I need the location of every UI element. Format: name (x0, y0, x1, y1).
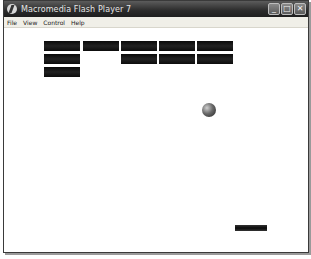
brick (197, 41, 233, 51)
window-controls: _ □ ✕ (268, 3, 306, 15)
brick (121, 41, 157, 51)
brick (197, 54, 233, 64)
menu-bar: File View Control Help (4, 17, 308, 28)
maximize-button[interactable]: □ (281, 3, 293, 15)
ball (202, 103, 216, 117)
brick (121, 54, 157, 64)
brick (44, 54, 80, 64)
title-bar[interactable]: Macromedia Flash Player 7 _ □ ✕ (4, 1, 308, 17)
menu-view[interactable]: View (20, 19, 40, 26)
brick (44, 67, 80, 77)
minimize-button[interactable]: _ (268, 3, 280, 15)
brick (83, 41, 119, 51)
window-title: Macromedia Flash Player 7 (21, 5, 131, 14)
menu-help[interactable]: Help (68, 19, 88, 26)
brick (159, 41, 195, 51)
flash-player-window: Macromedia Flash Player 7 _ □ ✕ File Vie… (3, 0, 309, 253)
brick (159, 54, 195, 64)
menu-control[interactable]: Control (40, 19, 68, 26)
paddle[interactable] (235, 225, 267, 231)
brick (44, 41, 80, 51)
menu-file[interactable]: File (4, 19, 20, 26)
close-button[interactable]: ✕ (294, 3, 306, 15)
flash-app-icon (7, 4, 17, 14)
